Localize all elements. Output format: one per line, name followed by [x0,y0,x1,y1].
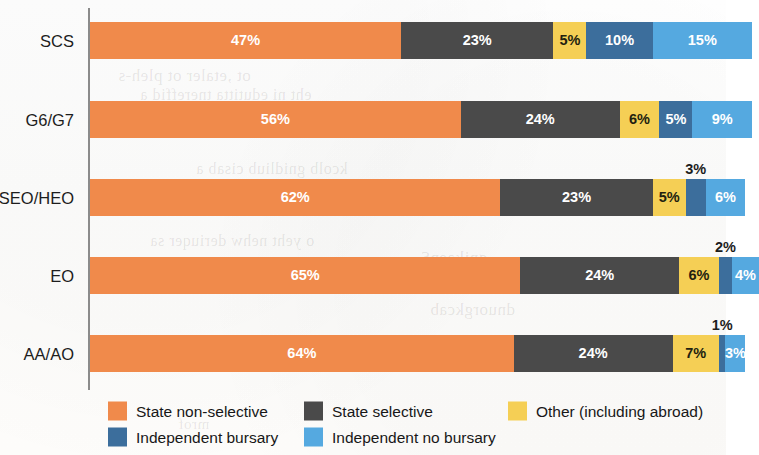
category-label: AA/AO [24,344,74,363]
legend-row: Independent bursaryIndependent no bursar… [108,424,746,450]
bar-segment: 23% [401,22,553,59]
bar-segment: 47% [90,22,401,59]
legend-item[interactable]: State non-selective [108,402,268,421]
segment-value-label: 10% [605,33,634,48]
bar-segment: 6% [706,179,746,216]
bar-row: SCS47%23%5%10%15% [88,22,726,59]
bar-segment: 4% [732,257,758,294]
segment-value-label: 62% [281,190,310,205]
bar-segment: 3% [725,335,745,372]
bar-row: AA/AO64%24%7%1%3% [88,335,726,372]
legend-label: Other (including abroad) [536,402,703,420]
bar-segment: 65% [90,257,520,294]
segment-value-label: 3% [685,162,706,177]
segment-value-label: 5% [659,190,680,205]
segment-value-label: 24% [579,346,608,361]
bar-segment: 62% [90,179,500,216]
bar-segment: 5% [553,22,586,59]
segment-value-label: 24% [585,268,614,283]
bar-row: G6/G756%24%6%5%9% [88,101,726,138]
legend-swatch [304,402,323,421]
bar-row: EO65%24%6%2%4% [88,257,726,294]
bar-segment: 56% [90,101,461,138]
category-label: SCS [40,31,74,50]
legend-swatch [508,402,527,421]
bar-segment: 5% [653,179,686,216]
stacked-bar: 64%24%7%1%3% [90,335,745,372]
chart-legend: State non-selectiveState selectiveOther … [108,398,746,450]
segment-value-label: 7% [685,346,706,361]
legend-label: State selective [332,402,433,420]
bar-segment: 24% [461,101,620,138]
legend-item[interactable]: Independent no bursary [304,428,496,447]
legend-row: State non-selectiveState selectiveOther … [108,398,746,424]
bar-segment: 24% [520,257,679,294]
y-axis-line [88,8,90,390]
bar-segment: 23% [500,179,652,216]
segment-value-label: 5% [559,33,580,48]
bar-segment: 3% [686,179,706,216]
legend-swatch [304,428,323,447]
segment-value-label: 2% [715,240,736,255]
bar-segment: 6% [620,101,660,138]
stacked-bar: 47%23%5%10%15% [90,22,752,59]
bar-segment: 15% [653,22,752,59]
segment-value-label: 47% [231,33,260,48]
bar-segment: 6% [679,257,719,294]
segment-value-label: 65% [291,268,320,283]
segment-value-label: 64% [287,346,316,361]
legend-item[interactable]: Independent bursary [108,428,278,447]
legend-label: State non-selective [136,402,268,420]
bar-segment: 9% [692,101,752,138]
bar-segment: 24% [514,335,673,372]
segment-value-label: 24% [526,112,555,127]
bar-segment: 64% [90,335,514,372]
bar-segment: 2% [719,257,732,294]
stacked-bar: 56%24%6%5%9% [90,101,752,138]
plot-area: SCS47%23%5%10%15%G6/G756%24%6%5%9%SEO/HE… [88,8,726,390]
segment-value-label: 3% [725,346,746,361]
legend-swatch [108,428,127,447]
bar-segment: 5% [659,101,692,138]
category-label: G6/G7 [25,110,74,129]
segment-value-label: 1% [712,318,733,333]
segment-value-label: 6% [689,268,710,283]
segment-value-label: 9% [712,112,733,127]
stacked-bar: 62%23%5%3%6% [90,179,745,216]
segment-value-label: 4% [735,268,756,283]
legend-item[interactable]: Other (including abroad) [508,402,703,421]
segment-value-label: 15% [688,33,717,48]
legend-swatch [108,402,127,421]
segment-value-label: 23% [562,190,591,205]
legend-label: Independent bursary [136,428,278,446]
bar-row: SEO/HEO62%23%5%3%6% [88,179,726,216]
stacked-bar: 65%24%6%2%4% [90,257,759,294]
segment-value-label: 6% [629,112,650,127]
category-label: SEO/HEO [0,188,74,207]
bar-segment: 7% [673,335,719,372]
segment-value-label: 5% [665,112,686,127]
segment-value-label: 23% [463,33,492,48]
segment-value-label: 6% [715,190,736,205]
bar-segment: 10% [586,22,652,59]
legend-item[interactable]: State selective [304,402,433,421]
category-label: EO [50,266,74,285]
segment-value-label: 56% [261,112,290,127]
legend-label: Independent no bursary [332,428,496,446]
